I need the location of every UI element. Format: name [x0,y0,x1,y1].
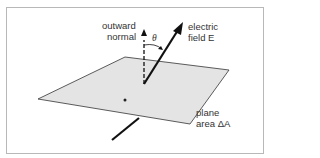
plane-label-2: area ΔA [196,119,230,129]
field-arrow-lower [112,118,139,140]
field-label-1: electric [188,22,218,32]
normal-label-1: outward [102,21,136,31]
field-arrowhead-icon [173,22,183,35]
plane-label-1: plane [196,108,219,118]
angle-label: θ [152,33,157,43]
field-label-2: field E [188,33,214,43]
center-point [124,99,127,102]
normal-label-2: normal [107,32,136,42]
normal-arrowhead-icon [141,29,147,36]
